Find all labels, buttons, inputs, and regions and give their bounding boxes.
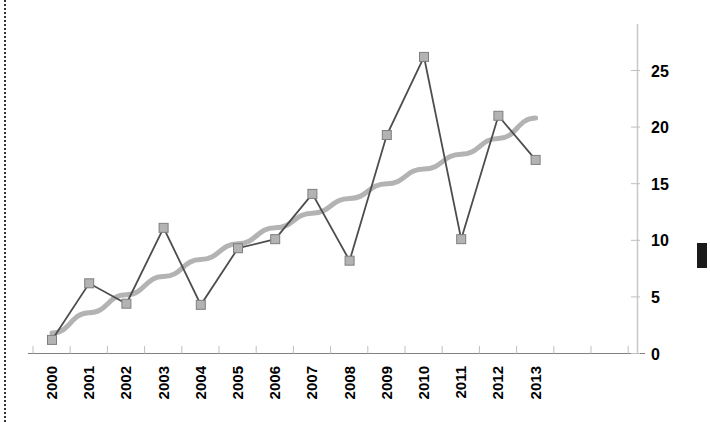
data-point-marker: [457, 235, 466, 244]
x-tick-label: 2000: [43, 366, 60, 399]
data-point-marker: [345, 256, 354, 265]
y-axis-tick-labels: 0510152025: [651, 63, 669, 363]
y-tick-label: 25: [651, 63, 669, 80]
data-point-marker: [234, 244, 243, 253]
x-axis-ticks: [33, 346, 628, 354]
data-point-marker: [85, 279, 94, 288]
chart-screenshot: 0510152025 20002001200220032004200520062…: [0, 0, 710, 422]
data-series-line: [52, 57, 536, 340]
data-point-marker: [196, 300, 205, 309]
y-tick-label: 0: [651, 346, 660, 363]
x-tick-label: 2013: [527, 366, 544, 399]
data-point-marker: [531, 155, 540, 164]
data-point-marker: [494, 111, 503, 120]
x-tick-label: 2010: [415, 366, 432, 399]
data-point-marker: [308, 189, 317, 198]
x-tick-label: 2001: [80, 366, 97, 399]
y-tick-label: 5: [651, 289, 660, 306]
x-tick-label: 2012: [489, 366, 506, 399]
x-tick-label: 2002: [117, 366, 134, 399]
x-axis-tick-labels: 2000200120022003200420052006200720082009…: [43, 365, 544, 399]
x-tick-label: 2005: [229, 366, 246, 399]
y-axis-ticks: [631, 71, 640, 354]
x-tick-label: 2007: [303, 366, 320, 399]
data-point-marker: [382, 131, 391, 140]
line-chart: 0510152025 20002001200220032004200520062…: [0, 0, 710, 422]
y-tick-label: 20: [651, 119, 669, 136]
x-tick-label: 2009: [378, 366, 395, 399]
data-point-marker: [122, 299, 131, 308]
x-tick-label: 2004: [192, 365, 209, 399]
y-tick-label: 15: [651, 176, 669, 193]
x-tick-label: 2008: [341, 366, 358, 399]
x-tick-label: 2011: [452, 366, 469, 399]
x-tick-label: 2006: [266, 366, 283, 399]
data-point-marker: [48, 335, 57, 344]
data-point-marker: [271, 235, 280, 244]
data-point-marker: [420, 52, 429, 61]
x-tick-label: 2003: [155, 366, 172, 399]
data-point-marker: [159, 223, 168, 232]
y-tick-label: 10: [651, 232, 669, 249]
